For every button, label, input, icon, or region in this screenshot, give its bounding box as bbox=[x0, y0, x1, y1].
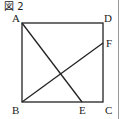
label-a: A bbox=[12, 12, 20, 24]
label-f: F bbox=[106, 37, 112, 49]
square-abcd bbox=[22, 23, 103, 102]
label-e: E bbox=[79, 104, 86, 116]
label-b: B bbox=[12, 104, 19, 116]
segment-bf bbox=[22, 43, 103, 102]
page-border bbox=[118, 0, 119, 119]
label-d: D bbox=[104, 12, 112, 24]
label-c: C bbox=[105, 104, 112, 116]
segment-ae bbox=[22, 23, 82, 102]
geometry-figure: 図 2 A D F B E C bbox=[0, 0, 123, 119]
